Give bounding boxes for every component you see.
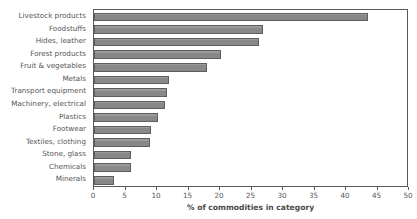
x-tick-mark [251,187,252,190]
bar-row [94,149,409,162]
x-tick-mark [188,187,189,190]
category-label: Metals [62,73,86,86]
x-tick-mark [282,187,283,190]
x-tick-label: 25 [246,191,255,200]
x-tick-mark [125,187,126,190]
category-label: Plastics [59,111,86,124]
bar [94,63,207,72]
bar-row [94,86,409,99]
bar-row [94,24,409,37]
x-tick-label: 45 [372,191,381,200]
category-label: Footwear [53,123,86,136]
bar [94,101,165,110]
category-axis-labels: Livestock productsFoodstuffsHides, leath… [0,10,89,186]
bar [94,88,167,97]
bars-layer [94,11,409,187]
category-label: Chemicals [49,161,86,174]
x-tick-label: 50 [403,191,412,200]
x-tick-mark [156,187,157,190]
bar-row [94,137,409,150]
x-tick-label: 15 [183,191,192,200]
category-label: Livestock products [19,10,86,23]
category-label: Stone, glass [42,148,86,161]
x-tick-label: 30 [277,191,286,200]
x-tick-mark [93,187,94,190]
x-tick-mark [314,187,315,190]
bar [94,138,150,147]
category-label: Forest products [30,48,86,61]
bar [94,38,259,47]
category-label: Foodstuffs [49,23,86,36]
category-label: Minerals [56,173,86,186]
x-tick-label: 35 [309,191,318,200]
bar [94,151,131,160]
bar-row [94,61,409,74]
bar [94,76,169,85]
bar [94,163,131,172]
bar-row [94,11,409,24]
bar-row [94,36,409,49]
bar-row [94,124,409,137]
bar-row [94,74,409,87]
bar-row [94,112,409,125]
x-tick-label: 20 [214,191,223,200]
x-axis: % of commodities in category 05101520253… [93,187,408,219]
x-tick-label: 5 [122,191,127,200]
bar [94,126,151,135]
x-tick-mark [345,187,346,190]
category-label: Machinery, electrical [11,98,86,111]
category-label: Fruit & vegetables [20,60,86,73]
bar-chart: Livestock productsFoodstuffsHides, leath… [0,0,417,219]
bar-row [94,174,409,187]
category-label: Hides, leather [36,35,86,48]
bar [94,113,158,122]
bar-row [94,162,409,175]
category-label: Transport equipment [11,85,86,98]
x-axis-title: % of commodities in category [93,203,408,212]
plot-area [93,9,408,187]
x-tick-mark [408,187,409,190]
category-label: Textiles, clothing [26,136,86,149]
bar [94,25,263,34]
x-tick-mark [377,187,378,190]
x-tick-label: 0 [91,191,96,200]
bar-row [94,99,409,112]
bar [94,13,368,22]
x-tick-label: 40 [340,191,349,200]
bar [94,176,114,185]
x-tick-label: 10 [151,191,160,200]
x-tick-mark [219,187,220,190]
bar [94,50,221,59]
bar-row [94,49,409,62]
